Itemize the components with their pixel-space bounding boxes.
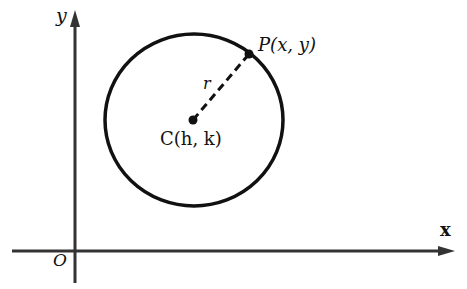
center-point xyxy=(189,116,198,125)
radius-line xyxy=(193,54,249,120)
x-axis-arrow-icon xyxy=(438,246,455,256)
point-p-label: P(x, y) xyxy=(257,34,316,55)
y-axis-label: y xyxy=(55,4,67,26)
x-axis-label: x xyxy=(440,219,451,240)
radius-label: r xyxy=(203,74,212,93)
circle-diagram: y x O P(x, y) C(h, k) r xyxy=(0,0,467,289)
center-label: C(h, k) xyxy=(160,128,222,149)
y-axis-arrow-icon xyxy=(70,10,80,27)
origin-label: O xyxy=(53,250,67,270)
point-p xyxy=(245,50,254,59)
